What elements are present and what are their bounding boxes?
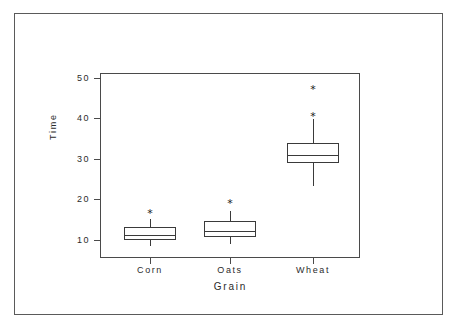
- y-tick-label-30: 30: [66, 154, 90, 164]
- x-tick-label-corn: Corn: [120, 265, 180, 275]
- oats-box: [204, 221, 256, 237]
- corn-outlier-marker: *: [144, 208, 156, 219]
- oats-median-line: [204, 231, 256, 232]
- y-axis-title: Time: [48, 113, 58, 140]
- wheat-outlier-marker-upper: *: [307, 84, 319, 95]
- corn-median-line: [124, 235, 176, 236]
- x-tick-mark-oats: [230, 258, 231, 264]
- x-tick-mark-corn: [150, 258, 151, 264]
- wheat-lower-whisker: [313, 163, 314, 186]
- y-tick-label-50: 50: [66, 73, 90, 83]
- wheat-box: [287, 143, 339, 163]
- y-tick-label-40: 40: [66, 113, 90, 123]
- boxplot-figure: Time 10 20 30 40 50 * * * * Corn Oats: [0, 0, 457, 327]
- corn-lower-whisker: [150, 239, 151, 246]
- wheat-outlier-marker-lower: *: [307, 111, 319, 122]
- x-axis-title: Grain: [214, 281, 247, 292]
- x-tick-label-wheat: Wheat: [283, 265, 343, 275]
- oats-outlier-marker: *: [224, 198, 236, 209]
- y-tick-label-20: 20: [66, 194, 90, 204]
- y-tick-label-10: 10: [66, 235, 90, 245]
- wheat-median-line: [287, 155, 339, 156]
- x-tick-mark-wheat: [313, 258, 314, 264]
- x-axis-title-wrap: Grain: [0, 281, 457, 292]
- x-tick-label-oats: Oats: [200, 265, 260, 275]
- oats-upper-whisker: [230, 211, 231, 221]
- oats-lower-whisker: [230, 237, 231, 244]
- corn-box: [124, 227, 176, 240]
